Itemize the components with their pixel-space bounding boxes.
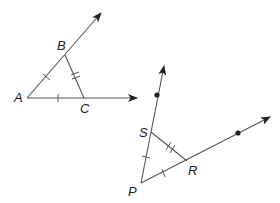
triangle-psr: S R P (128, 66, 270, 199)
ray-ab (27, 13, 101, 98)
segment-sr (151, 132, 187, 161)
tick-sr-1 (166, 142, 171, 150)
segment-bc (65, 55, 84, 98)
diagram-canvas: B A C S R P (0, 0, 280, 203)
ray-pr (141, 117, 270, 183)
point-on-ray-pr (235, 130, 240, 135)
label-c: C (80, 101, 90, 116)
label-a: A (13, 90, 23, 105)
triangle-abc: B A C (13, 13, 137, 116)
label-b: B (57, 38, 66, 53)
geometry-diagram: B A C S R P (0, 0, 280, 203)
tick-pr (162, 169, 165, 177)
point-on-ray-ps (154, 92, 159, 97)
label-p: P (128, 184, 137, 199)
label-s: S (139, 125, 148, 140)
label-r: R (188, 163, 197, 178)
tick-sr-2 (170, 145, 175, 153)
